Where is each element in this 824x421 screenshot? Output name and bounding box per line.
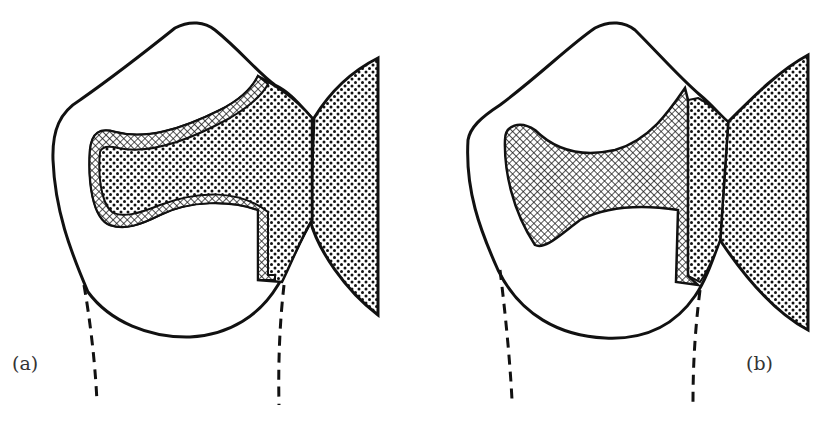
adjacent-tooth-b	[720, 55, 808, 330]
panel-label-b: (b)	[746, 352, 773, 374]
panel-label-a: (a)	[12, 352, 38, 374]
gingiva-line-right-b	[693, 290, 700, 402]
adjacent-tooth-a	[310, 58, 378, 315]
contact-dotted-b	[688, 98, 728, 282]
figure-canvas	[0, 0, 824, 421]
panel-b	[468, 23, 808, 402]
gingiva-line-right-a	[279, 285, 284, 405]
panel-a	[53, 23, 378, 405]
